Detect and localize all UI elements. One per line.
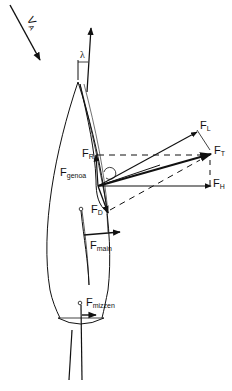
fl-label: FL: [200, 120, 211, 132]
hull-outline: [47, 82, 78, 318]
fmizzen-label: Fmizzen: [86, 297, 115, 309]
main-mast: [79, 207, 83, 211]
mizzen-mast: [78, 301, 82, 305]
course-arrow: [87, 28, 91, 92]
sail-force-diagram: VA λ FL FT FH FR Fgenoa FD Fmain Fmizzen: [0, 0, 232, 391]
angle-arc: [104, 167, 116, 179]
diagram-drawing: [0, 0, 232, 391]
lambda-label: λ: [80, 50, 85, 60]
fmain-label: Fmain: [90, 240, 112, 252]
fd-dashed-line: [110, 160, 200, 210]
apparent-wind-arrow: [10, 5, 40, 60]
main-force-arrow: [84, 232, 120, 235]
fr-label: FR: [82, 148, 94, 160]
fd-label: FD: [91, 204, 103, 216]
hull-outline-right: [78, 82, 110, 318]
fl-arrow: [98, 132, 197, 186]
fh-label: FH: [213, 178, 225, 190]
main-sail: [81, 211, 89, 285]
ft-label: FT: [214, 145, 225, 157]
mizzen-boom: [81, 305, 82, 380]
rudder-line: [69, 330, 72, 380]
fl-perp-tick: [197, 130, 210, 150]
fgenoa-label: Fgenoa: [60, 167, 86, 179]
